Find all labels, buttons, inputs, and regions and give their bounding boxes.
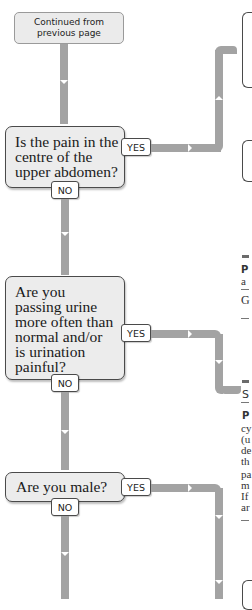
chevron-icon <box>61 430 69 434</box>
chevron-icon <box>215 515 223 519</box>
result-box-partial <box>242 580 252 610</box>
divider <box>241 289 249 290</box>
chevron-icon <box>60 80 68 84</box>
chevron-icon <box>61 552 69 556</box>
question-box-upper-abdomen: Is the pain in the centre of the upper a… <box>5 126 125 188</box>
panel-text: P <box>242 410 249 421</box>
arrow-q1-no <box>61 199 69 275</box>
chevron-icon <box>188 330 192 338</box>
arrow-q2-yes-end <box>219 386 241 394</box>
section-rule <box>242 255 249 258</box>
arrow-q3-no <box>61 516 69 599</box>
no-label: NO <box>51 374 79 392</box>
arrow-q1-yes <box>151 144 221 152</box>
arrow-q3-yes <box>151 484 221 492</box>
start-label: Continued from previous page <box>29 17 109 39</box>
panel-text: G <box>241 295 250 306</box>
panel-heading: S <box>242 389 249 400</box>
divider <box>241 520 249 521</box>
question-box-urination: Are you passing urine more often than no… <box>5 276 125 380</box>
panel-text: ar <box>241 502 250 513</box>
yes-label: YES <box>121 478 151 496</box>
section-rule <box>242 380 249 383</box>
yes-label: YES <box>121 138 151 156</box>
yes-label: YES <box>121 324 151 342</box>
result-box-partial <box>242 12 252 88</box>
chevron-icon <box>188 144 192 152</box>
continued-from-previous-page-box: Continued from previous page <box>14 12 124 44</box>
no-label: NO <box>51 181 79 199</box>
no-label: NO <box>51 498 79 516</box>
question-text: Are you passing urine more often than no… <box>6 277 115 374</box>
chevron-icon <box>215 360 223 364</box>
arrow-q1-yes-up <box>215 50 223 152</box>
arrow-q1-yes-top <box>215 46 237 54</box>
arrow-q2-yes <box>151 330 221 338</box>
result-box-partial <box>242 140 252 182</box>
question-text: Is the pain in the centre of the upper a… <box>6 127 120 179</box>
chevron-icon <box>215 580 223 584</box>
arrow-start-to-q1 <box>60 44 68 124</box>
chevron-icon <box>188 484 192 492</box>
question-text: Are you male? <box>6 473 124 494</box>
panel-text: a <box>241 276 246 287</box>
panel-text: th <box>241 456 250 467</box>
chevron-icon <box>61 232 69 236</box>
chevron-icon <box>215 96 223 100</box>
arrow-q2-yes-down <box>215 334 223 394</box>
divider <box>241 402 249 403</box>
panel-text: P <box>241 264 248 275</box>
divider <box>241 318 249 319</box>
